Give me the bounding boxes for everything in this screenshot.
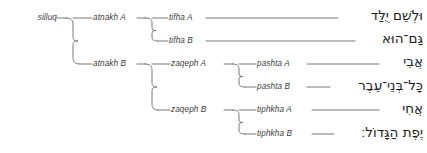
hebrew-segment-2: גַּם־הוּא bbox=[382, 32, 423, 46]
connector-zaqeph-a-brace bbox=[232, 64, 245, 87]
node-label-zaqeph-b[interactable]: zaqeph B bbox=[171, 106, 206, 114]
hebrew-segment-5: אֲחִי bbox=[402, 102, 423, 116]
hebrew-segment-1: וּלְשֵׁם יֻלַּד bbox=[371, 9, 423, 23]
connector-zaqeph-b-brace bbox=[232, 110, 245, 134]
node-label-pashta-a[interactable]: pashta A bbox=[257, 60, 290, 68]
accent-hierarchy-diagram: silluq atnakh A atnakh B tifha A tifha B… bbox=[0, 0, 427, 153]
node-label-atnakh-a[interactable]: atnakh A bbox=[93, 14, 126, 22]
connector-atnakh-b-brace bbox=[145, 64, 158, 110]
node-label-tifha-a[interactable]: tifha A bbox=[169, 14, 193, 22]
hebrew-segment-3: אֲבִי bbox=[403, 55, 423, 69]
node-label-tiphkha-a[interactable]: tiphkha A bbox=[257, 106, 292, 114]
connector-atnakh-a-brace bbox=[145, 18, 158, 41]
node-label-pashta-b[interactable]: pashta B bbox=[257, 83, 290, 91]
hebrew-segment-6: יֶפֶת הַגָּדוֹל׃ bbox=[361, 126, 423, 140]
node-label-atnakh-b[interactable]: atnakh B bbox=[93, 60, 126, 68]
node-label-tifha-b[interactable]: tifha B bbox=[169, 37, 193, 45]
node-label-tiphkha-b[interactable]: tiphkha B bbox=[257, 130, 292, 138]
node-label-zaqeph-a[interactable]: zaqeph A bbox=[171, 60, 206, 68]
node-label-silluq[interactable]: silluq bbox=[38, 14, 57, 22]
hebrew-segment-4: כָּל־בְּנֵי־עֵבֶר bbox=[358, 79, 423, 93]
connector-silluq-brace bbox=[66, 18, 80, 64]
